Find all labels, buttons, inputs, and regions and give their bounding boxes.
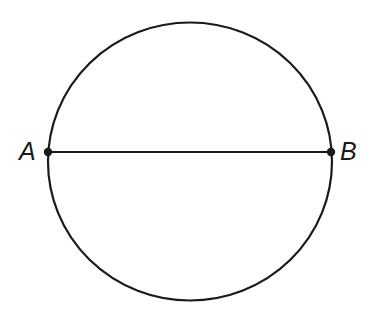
point-a-dot <box>44 148 52 156</box>
geometry-drawing <box>0 0 369 323</box>
point-b-label: B <box>340 139 357 164</box>
point-b-dot <box>327 148 335 156</box>
circle-outline <box>48 23 332 301</box>
figure-canvas: A B <box>0 0 369 323</box>
point-a-label: A <box>19 139 36 164</box>
